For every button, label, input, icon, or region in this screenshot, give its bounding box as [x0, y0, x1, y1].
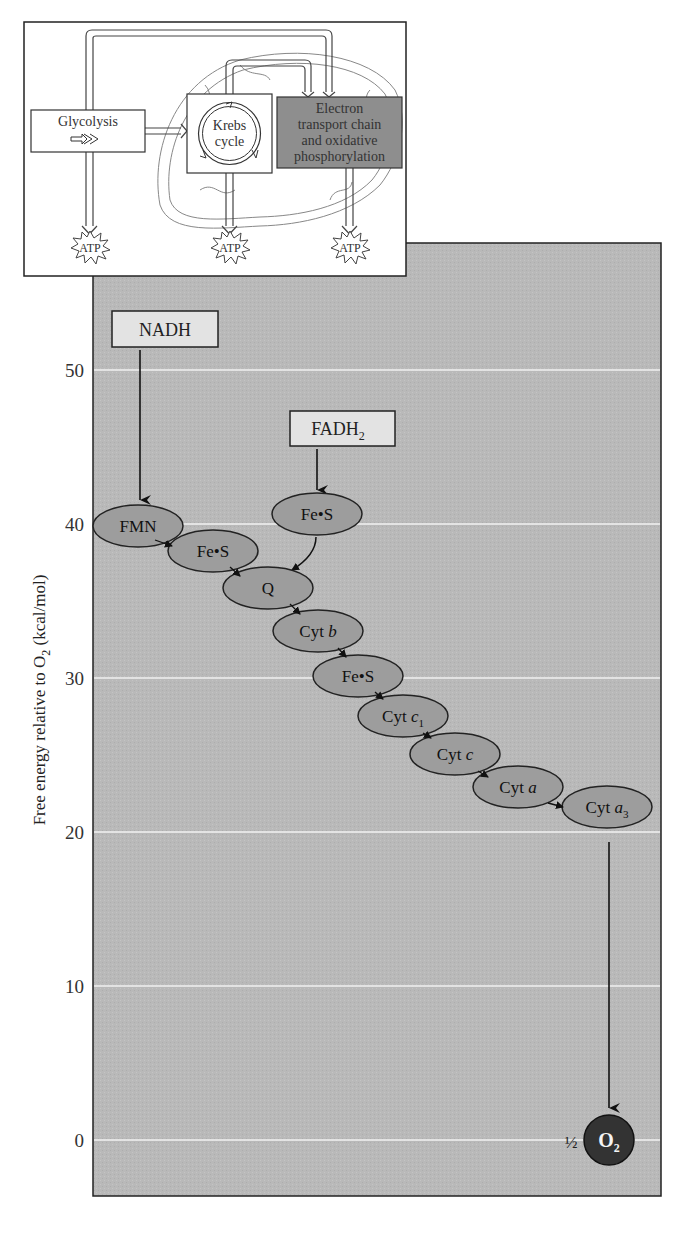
- node-fes-2-label: Fe•S: [342, 667, 374, 686]
- node-cyt-c1-label: Cyt c1: [382, 707, 424, 729]
- nadh-label: NADH: [139, 320, 191, 340]
- tick-0: 0: [75, 1130, 85, 1151]
- node-cyt-a-label: Cyt a: [499, 778, 536, 797]
- tick-10: 10: [65, 976, 84, 997]
- node-cyt-a3-label: Cyt a3: [586, 798, 629, 820]
- y-axis-label: Free energy relative to O2 (kcal/mol): [30, 575, 53, 826]
- etc-label-line3: and oxidative: [302, 133, 378, 148]
- glycolysis-box: Glycolysis: [31, 110, 145, 152]
- half-coefficient: ½: [565, 1133, 578, 1152]
- y-axis-ticks: 50 40 30 20 10 0: [65, 360, 84, 1151]
- node-cyt-b-label: Cyt b: [299, 622, 336, 641]
- atp-label-3: ATP: [339, 241, 361, 255]
- atp-label-1: ATP: [79, 241, 101, 255]
- node-cyt-c-label: Cyt c: [437, 745, 474, 764]
- atp-label-2: ATP: [219, 241, 241, 255]
- etc-label-line2: transport chain: [298, 117, 382, 132]
- tick-30: 30: [65, 668, 84, 689]
- krebs-cycle-box: Krebs cycle: [187, 94, 272, 173]
- glycolysis-label: Glycolysis: [58, 114, 118, 129]
- tick-40: 40: [65, 514, 84, 535]
- fadh2-box: FADH2: [290, 411, 395, 446]
- krebs-label-line2: cycle: [215, 134, 245, 149]
- etc-box: Electron transport chain and oxidative p…: [277, 97, 402, 168]
- energy-plot: 50 40 30 20 10 0 Free energy relative to…: [30, 243, 661, 1196]
- etc-label-line1: Electron: [316, 101, 363, 116]
- node-q-label: Q: [262, 579, 274, 598]
- krebs-label-line1: Krebs: [213, 118, 246, 133]
- etc-label-line4: phosphorylation: [294, 149, 385, 164]
- electron-transport-diagram: 50 40 30 20 10 0 Free energy relative to…: [0, 0, 674, 1233]
- node-fes-1-label: Fe•S: [197, 542, 229, 561]
- cellular-respiration-inset: Glycolysis Krebs cycle Electron transpor…: [24, 22, 406, 276]
- tick-20: 20: [65, 822, 84, 843]
- tick-50: 50: [65, 360, 84, 381]
- nadh-box: NADH: [112, 311, 218, 347]
- node-fes-fadh-label: Fe•S: [301, 505, 333, 524]
- node-fmn-label: FMN: [120, 517, 157, 536]
